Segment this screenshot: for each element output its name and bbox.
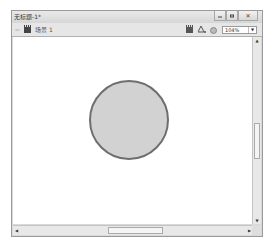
back-arrow-icon[interactable]: ⇦ (15, 26, 20, 34)
vertical-scroll-thumb[interactable] (254, 123, 260, 159)
window-controls: ✕ (214, 11, 258, 22)
circle-shape[interactable] (89, 80, 169, 160)
minimize-icon (218, 16, 222, 17)
zoom-select[interactable]: 104% ▼ (222, 26, 257, 34)
horizontal-scroll-thumb[interactable] (108, 227, 163, 234)
close-button[interactable]: ✕ (238, 11, 258, 21)
scene-icon (24, 27, 31, 33)
chevron-down-icon: ▼ (248, 27, 256, 33)
zoom-value: 104% (225, 27, 239, 33)
vertical-scrollbar[interactable]: ▲ ▼ (252, 37, 261, 224)
breadcrumb-scene[interactable]: 场景 1 (35, 26, 53, 34)
window-title: 无标题-1* (14, 12, 41, 22)
magnifier-icon[interactable] (210, 27, 217, 33)
scroll-down-icon[interactable]: ▼ (253, 217, 261, 224)
scroll-left-icon[interactable]: ◀ (13, 226, 20, 235)
edit-symbols-icon[interactable] (198, 26, 205, 33)
scrollbar-corner (252, 225, 261, 235)
minimize-button[interactable] (214, 11, 226, 21)
horizontal-scrollbar[interactable]: ◀ ▶ (13, 225, 253, 235)
scroll-up-icon[interactable]: ▲ (253, 37, 261, 44)
close-icon: ✕ (245, 13, 250, 19)
edit-scene-icon[interactable] (186, 27, 193, 33)
maximize-button[interactable] (226, 11, 238, 21)
document-window: 无标题-1* ✕ ⇦ 场景 1 (11, 10, 263, 237)
edit-bar: ⇦ 场景 1 104% ▼ (12, 23, 262, 37)
stage-canvas[interactable] (13, 37, 253, 224)
maximize-icon (230, 14, 234, 17)
